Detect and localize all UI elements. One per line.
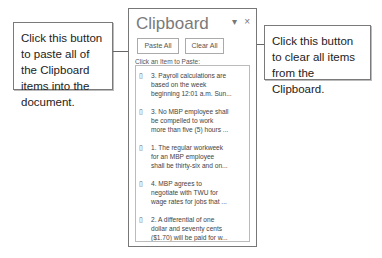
chevron-down-icon[interactable]: ▾ (232, 16, 237, 27)
document-icon: ▯ (139, 215, 151, 242)
clear-all-button[interactable]: Clear All (185, 38, 224, 54)
clipboard-item-text: 1. The regular workweek for an MBP emplo… (151, 143, 228, 170)
clipboard-items-list[interactable]: ▯ 3. Payroll calculations are based on t… (135, 65, 250, 242)
callout-paste-all: Click this button to paste all of the Cl… (13, 22, 113, 90)
clipboard-item-text: 3. No MBP employee shall be compelled to… (151, 107, 229, 134)
paste-hint: Click an Item to Paste: (135, 58, 200, 65)
document-icon: ▯ (139, 71, 151, 98)
document-icon: ▯ (139, 179, 151, 206)
close-icon[interactable]: × (244, 16, 250, 27)
clipboard-item[interactable]: ▯ 2. A differential of one dollar and se… (139, 215, 247, 242)
callout-clear-all: Click this button to clear all items fro… (264, 25, 371, 80)
clipboard-pane: Clipboard ▾ × Paste All Clear All Click … (128, 8, 257, 247)
paste-all-button[interactable]: Paste All (137, 38, 179, 54)
clipboard-item[interactable]: ▯ 1. The regular workweek for an MBP emp… (139, 143, 247, 170)
clipboard-item[interactable]: ▯ 3. Payroll calculations are based on t… (139, 71, 247, 98)
document-icon: ▯ (139, 143, 151, 170)
clipboard-item-text: 3. Payroll calculations are based on the… (151, 71, 232, 98)
pane-title: Clipboard (136, 14, 209, 34)
clipboard-item[interactable]: ▯ 3. No MBP employee shall be compelled … (139, 107, 247, 134)
clipboard-item[interactable]: ▯ 4. MBP agrees to negotiate with TWU fo… (139, 179, 247, 206)
pane-header-controls: ▾ × (228, 16, 250, 27)
document-icon: ▯ (139, 107, 151, 134)
clipboard-item-text: 2. A differential of one dollar and seve… (151, 215, 228, 242)
clipboard-item-text: 4. MBP agrees to negotiate with TWU for … (151, 179, 227, 206)
